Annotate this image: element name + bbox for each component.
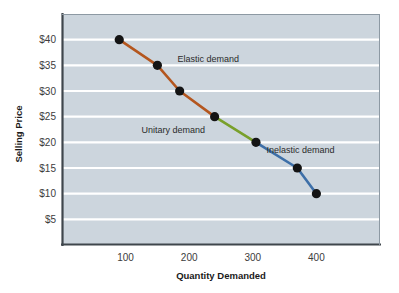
plot-area-background: [62, 14, 380, 245]
annotation-label: Inelastic demand: [266, 145, 334, 155]
y-tick-label: $15: [39, 163, 56, 174]
y-tick-label: $40: [39, 34, 56, 45]
y-tick-label: $35: [39, 60, 56, 71]
y-tick-label: $10: [39, 188, 56, 199]
x-tick-label: 100: [117, 252, 134, 263]
data-point: [115, 35, 124, 44]
data-point: [210, 112, 219, 121]
x-tick-label: 200: [181, 252, 198, 263]
y-axis-title: Selling Price: [13, 105, 24, 162]
y-tick-label: $25: [39, 111, 56, 122]
y-tick-label: $20: [39, 137, 56, 148]
annotation-label: Elastic demand: [178, 54, 240, 64]
x-tick-label: 300: [244, 252, 261, 263]
data-point: [153, 61, 162, 70]
y-axis-tick-labels: $40$35$30$25$20$15$10$5: [39, 34, 56, 225]
chart-canvas: $40$35$30$25$20$15$10$5 100200300400 Ela…: [0, 0, 399, 293]
x-tick-label: 400: [308, 252, 325, 263]
annotation-label: Unitary demand: [142, 125, 206, 135]
data-point: [251, 138, 260, 147]
data-point: [175, 86, 184, 95]
demand-elasticity-chart: $40$35$30$25$20$15$10$5 100200300400 Ela…: [0, 0, 399, 293]
y-tick-label: $30: [39, 86, 56, 97]
x-axis-title: Quantity Demanded: [176, 270, 266, 281]
x-axis-tick-labels: 100200300400: [117, 252, 325, 263]
y-tick-label: $5: [45, 214, 57, 225]
data-point: [312, 189, 321, 198]
data-point: [293, 163, 302, 172]
